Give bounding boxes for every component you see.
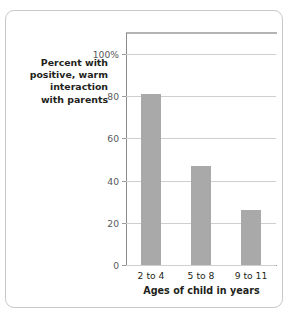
y-axis-tick-label: 100% [93, 49, 119, 60]
gridline [126, 265, 276, 266]
plot-area: 020406080100% [126, 33, 276, 265]
y-axis-tick-label: 60 [107, 133, 119, 144]
y-axis-label-line-3: interaction [14, 81, 108, 93]
gridline [126, 54, 276, 55]
bar [241, 210, 261, 265]
y-axis-tick-mark [122, 96, 126, 97]
x-axis-tick-label: 9 to 11 [235, 270, 268, 281]
y-axis-tick-label: 40 [107, 175, 119, 186]
y-axis-tick-mark [122, 54, 126, 55]
y-axis-tick-mark [122, 138, 126, 139]
y-axis-tick-mark [122, 265, 126, 266]
y-axis-tick-mark [122, 223, 126, 224]
y-axis-label-line-4: with parents [14, 94, 108, 106]
y-axis-tick-mark [122, 181, 126, 182]
chart-figure: Percent with positive, warm interaction … [0, 0, 292, 321]
y-axis-label: Percent with positive, warm interaction … [14, 57, 108, 106]
y-axis-label-line-2: positive, warm [14, 69, 108, 81]
bar [141, 94, 161, 265]
y-axis-tick-label: 80 [107, 91, 119, 102]
y-axis-tick-label: 20 [107, 217, 119, 228]
x-axis-tick-label: 2 to 4 [138, 270, 165, 281]
y-axis-tick-label: 0 [113, 260, 119, 271]
bar [191, 166, 211, 265]
x-axis-title: Ages of child in years [126, 285, 277, 296]
x-axis-tick-label: 5 to 8 [188, 270, 215, 281]
